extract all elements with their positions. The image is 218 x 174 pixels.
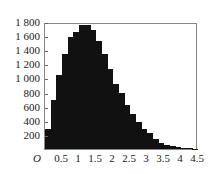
plot-area [44,23,197,150]
x-tick-label: 1 [75,153,81,164]
x-tick-label: 3.5 [156,153,170,164]
x-tick-label: 4 [177,153,183,164]
y-tick-mark [45,136,48,137]
y-tick-label: 1 600 [0,31,40,42]
y-tick-mark [45,37,48,38]
y-tick-mark [45,23,48,24]
x-tick-label: 0.5 [54,153,68,164]
y-tick-label: 1 400 [0,45,40,56]
y-tick-mark [45,79,48,80]
y-tick-mark [45,108,48,109]
y-tick-label: 200 [0,130,40,141]
x-tick-label: 4.5 [190,153,204,164]
y-tick-label: 400 [0,116,40,127]
origin-label: O [33,153,41,164]
histogram-chart: 2004006008001 0001 2001 4001 6001 800 O … [0,0,218,174]
x-tick-label: 2 [109,153,115,164]
y-tick-mark [45,122,48,123]
y-tick-label: 1 000 [0,73,40,84]
y-tick-mark [45,65,48,66]
x-tick-label: 3 [143,153,149,164]
y-tick-label: 800 [0,88,40,99]
y-tick-mark [45,94,48,95]
y-tick-label: 1 800 [0,17,40,28]
x-tick-label: 1.5 [88,153,102,164]
y-tick-label: 1 200 [0,59,40,70]
x-tick-label: 2.5 [122,153,136,164]
y-tick-label: 600 [0,102,40,113]
y-tick-mark [45,51,48,52]
